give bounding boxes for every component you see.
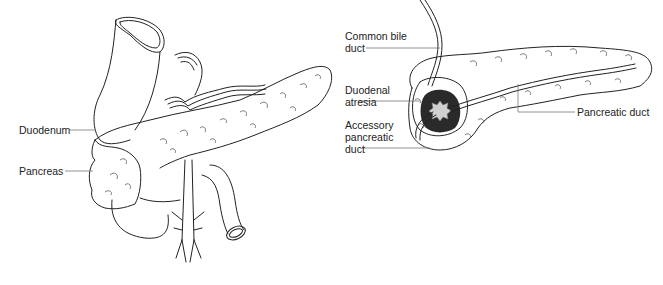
label-pancreatic-duct: Pancreatic duct xyxy=(577,106,649,118)
label-line: duct xyxy=(345,143,393,155)
label-line: Duodenal xyxy=(345,84,390,96)
label-duodenal-atresia: Duodenal atresia xyxy=(345,84,390,108)
diagram-canvas: Duodenum Pancreas Common bile duct Duode… xyxy=(0,0,663,285)
right-pancreas-illustration xyxy=(409,0,652,150)
label-line: atresia xyxy=(345,96,390,108)
label-line: Accessory xyxy=(345,119,393,131)
label-accessory-pancreatic-duct: Accessory pancreatic duct xyxy=(345,119,393,155)
left-pancreas-illustration xyxy=(89,17,331,262)
label-duodenum: Duodenum xyxy=(19,124,70,136)
anatomy-illustration xyxy=(0,0,663,285)
label-line: Common bile xyxy=(345,30,407,42)
label-pancreas: Pancreas xyxy=(19,165,63,177)
label-line: pancreatic xyxy=(345,131,393,143)
label-common-bile-duct: Common bile duct xyxy=(345,30,407,54)
label-line: duct xyxy=(345,42,407,54)
